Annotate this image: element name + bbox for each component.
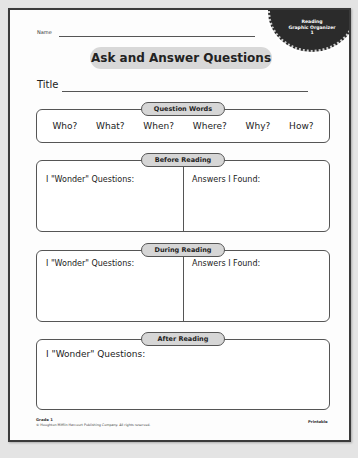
column-divider <box>183 251 184 321</box>
printable-label: Printable <box>308 419 328 424</box>
before-reading-heading: Before Reading <box>141 153 225 167</box>
title-label: Title <box>37 79 58 90</box>
question-words-list: Who? What? When? Where? Why? How? <box>37 121 329 131</box>
badge-line-3: 1 <box>270 30 351 36</box>
before-reading-box: I "Wonder" Questions: Answers I Found: <box>36 160 330 232</box>
after-reading-box: I "Wonder" Questions: <box>36 339 330 410</box>
grade-label: Grade 1 <box>36 417 53 422</box>
question-word: When? <box>143 121 174 131</box>
question-word: Who? <box>52 121 77 131</box>
title-line <box>62 91 308 92</box>
answers-found-label: Answers I Found: <box>192 175 260 184</box>
question-word: What? <box>96 121 124 131</box>
question-word: Where? <box>193 121 227 131</box>
answers-found-label: Answers I Found: <box>192 259 260 268</box>
question-word: Why? <box>246 121 271 131</box>
name-line <box>59 36 255 37</box>
after-reading-heading: After Reading <box>141 332 225 346</box>
during-reading-box: I "Wonder" Questions: Answers I Found: <box>36 250 330 322</box>
column-divider <box>183 161 184 231</box>
name-label: Name <box>37 29 52 35</box>
graphic-organizer-badge: Reading Graphic Organizer 1 <box>268 8 351 52</box>
wonder-questions-label: I "Wonder" Questions: <box>46 259 134 268</box>
wonder-questions-label: I "Wonder" Questions: <box>46 349 145 359</box>
during-reading-heading: During Reading <box>141 243 225 257</box>
worksheet-title: Ask and Answer Questions <box>90 47 272 69</box>
copyright-notice: © Houghton Mifflin Harcourt Publishing C… <box>36 423 150 427</box>
worksheet-page: Reading Graphic Organizer 1 Name Ask and… <box>8 8 351 442</box>
wonder-questions-label: I "Wonder" Questions: <box>46 175 134 184</box>
question-words-heading: Question Words <box>141 102 225 116</box>
question-word: How? <box>289 121 313 131</box>
